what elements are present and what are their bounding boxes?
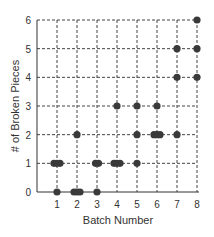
x-tick-label: 8 [194,199,200,210]
data-point [56,160,63,167]
data-point [133,102,140,109]
y-tick-label: 5 [25,44,31,55]
y-tick-label: 6 [25,15,31,26]
y-axis-label: # of Broken Pieces [9,59,21,152]
data-point [156,131,163,138]
data-point [173,131,180,138]
x-tick-label: 3 [94,199,100,210]
y-tick-label: 1 [25,158,31,169]
data-point [133,131,140,138]
x-tick-label: 5 [134,199,140,210]
data-point [73,131,80,138]
data-point [76,188,83,195]
data-point [153,102,160,109]
x-tick-labels: 12345678 [54,199,200,210]
y-tick-label: 4 [25,72,31,83]
x-tick-label: 6 [154,199,160,210]
data-point [93,188,100,195]
data-point [173,74,180,81]
data-point [133,160,140,167]
data-point [193,74,200,81]
x-axis-label: Batch Number [83,214,154,226]
x-tick-label: 2 [74,199,80,210]
data-point [53,188,60,195]
x-tick-label: 1 [54,199,60,210]
data-point [193,16,200,23]
data-point [113,102,120,109]
data-point [193,45,200,52]
y-tick-label: 2 [25,130,31,141]
data-point [95,160,102,167]
y-tick-label: 0 [25,187,31,198]
y-tick-labels: 0123456 [25,15,31,198]
x-tick-label: 7 [174,199,180,210]
scatter-chart: 12345678 0123456 Batch Number # of Broke… [0,0,214,237]
y-tick-label: 3 [25,101,31,112]
data-point [173,45,180,52]
x-tick-label: 4 [114,199,120,210]
data-point [116,160,123,167]
